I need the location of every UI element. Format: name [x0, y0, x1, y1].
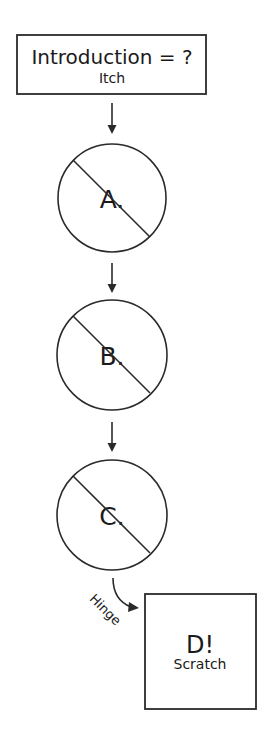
end-node-title: D! — [186, 631, 214, 659]
start-node: Introduction = ? Itch — [17, 35, 206, 94]
hinge-edge: Hinge — [87, 578, 139, 628]
step-node-a: A. — [58, 144, 166, 252]
curved-arrow-icon — [113, 578, 131, 607]
arrow-start-to-a — [108, 103, 117, 134]
arrow-down-icon — [108, 443, 117, 452]
step-node-c: C. — [57, 460, 167, 570]
end-node: D! Scratch — [145, 594, 256, 709]
start-node-subtitle: Itch — [99, 70, 125, 86]
end-node-subtitle: Scratch — [174, 656, 227, 672]
arrow-right-icon — [128, 602, 139, 612]
arrow-down-icon — [108, 125, 117, 134]
arrow-b-to-c — [108, 422, 117, 452]
flow-diagram: Introduction = ? Itch A. B. C. Hinge — [0, 0, 274, 734]
start-node-title: Introduction = ? — [31, 45, 192, 69]
arrow-a-to-b — [108, 263, 117, 293]
step-node-b: B. — [57, 300, 167, 410]
arrow-down-icon — [108, 284, 117, 293]
